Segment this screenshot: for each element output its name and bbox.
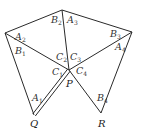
label-A2: A2 [14,31,26,43]
label-A3: A3 [66,14,78,26]
label-B2: B2 [50,14,62,26]
label-B3: B3 [109,28,121,40]
label-A1: A1 [31,92,43,104]
point-label-R: R [97,118,106,129]
point-label-P: P [65,78,73,89]
label-B4: B4 [96,92,108,104]
label-B1: B1 [14,45,26,57]
label-A4: A4 [114,41,126,53]
point-label-Q: Q [30,118,38,129]
label-C4: C4 [76,65,87,77]
geometry-diagram: A1 A2 A3 A4 B1 B2 B3 B4 C1 C2 C3 C4 P Q … [0,0,144,137]
label-C3: C3 [70,51,81,63]
label-C1: C1 [52,66,63,78]
label-C2: C2 [56,51,67,63]
edges [5,10,132,116]
